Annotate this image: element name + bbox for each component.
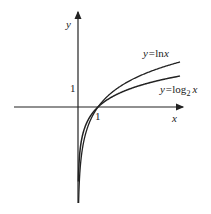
- label-log2: y=log2x: [159, 83, 197, 98]
- y-tick-1: 1: [70, 82, 76, 94]
- label-ln: y=lnx: [142, 47, 169, 59]
- graph: y x 1 1 y=lnx y=log2x: [0, 0, 211, 214]
- x-axis-label: x: [171, 112, 177, 124]
- x-tick-1: 1: [95, 110, 101, 122]
- y-axis-label: y: [65, 18, 71, 30]
